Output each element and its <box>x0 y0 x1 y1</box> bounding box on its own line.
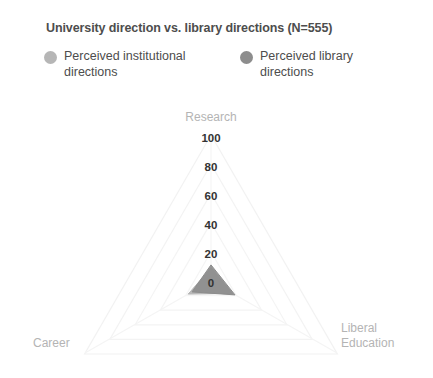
radar-chart-card: University direction vs. library directi… <box>0 0 433 378</box>
axis-label-liberal-education-line1: Liberal <box>341 321 377 335</box>
axis-label-liberal-education-line2: Education <box>341 336 394 350</box>
axis-label-career: Career <box>33 336 143 351</box>
radar-plot-area: 100 80 60 40 20 0 Research Career Libera… <box>0 0 433 378</box>
tick-label-0: 0 <box>191 277 231 289</box>
axis-label-liberal-education: Liberal Education <box>341 321 431 351</box>
tick-label-100: 100 <box>191 132 231 144</box>
tick-label-60: 60 <box>191 190 231 202</box>
tick-label-40: 40 <box>191 219 231 231</box>
tick-label-80: 80 <box>191 161 231 173</box>
tick-label-20: 20 <box>191 248 231 260</box>
axis-label-research: Research <box>151 110 271 125</box>
